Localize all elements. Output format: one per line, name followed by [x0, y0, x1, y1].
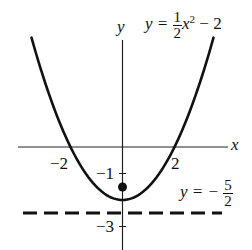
focus-point [118, 183, 127, 192]
dir-fraction: 5 2 [223, 178, 233, 209]
eq-denominator: 2 [174, 26, 182, 41]
dir-lhs: y = − [180, 182, 219, 201]
dir-numerator: 5 [223, 178, 233, 194]
eq-numerator: 1 [173, 10, 183, 26]
directrix-equation-label: y = − 5 2 [180, 178, 233, 209]
x-tick-label-minus-2: −2 [50, 155, 68, 172]
eq-fraction: 1 2 [173, 10, 183, 41]
y-tick-label-minus-1: −1 [96, 165, 114, 182]
eq-lhs: y = [145, 14, 168, 33]
x-axis-label: x [231, 136, 239, 153]
dir-denominator: 2 [224, 194, 232, 209]
eq-variable: x [182, 14, 190, 33]
x-tick-label-2: 2 [171, 155, 180, 172]
y-tick-label-minus-3: −3 [96, 218, 114, 235]
y-axis-label: y [117, 18, 125, 35]
eq-rest: − 2 [199, 14, 221, 33]
eq-exponent: 2 [190, 13, 196, 25]
parabola-equation-label: y = 1 2 x2 − 2 [145, 10, 222, 41]
